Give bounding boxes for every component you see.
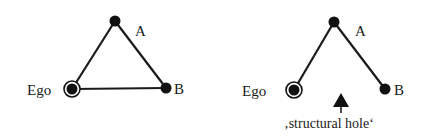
label-a: A	[355, 23, 366, 39]
node-ego	[286, 82, 302, 98]
structural-hole-diagram: Ego A B Ego A B ‚structural hole‘	[0, 0, 429, 138]
label-a: A	[135, 23, 146, 39]
node-a	[329, 17, 340, 28]
node-b	[161, 83, 172, 94]
label-b: B	[174, 81, 184, 97]
structural-hole-label: ‚structural hole‘	[284, 116, 374, 131]
edge-ego-b	[72, 88, 166, 89]
label-ego: Ego	[242, 83, 266, 99]
node-b	[380, 84, 391, 95]
open-triad-diagram: Ego A B ‚structural hole‘	[242, 17, 404, 132]
edge-ego-a	[294, 22, 334, 90]
node-ego	[64, 81, 80, 97]
up-arrow-icon	[333, 93, 349, 113]
label-ego: Ego	[27, 82, 51, 98]
closed-triad-diagram: Ego A B	[27, 16, 184, 99]
edge-ego-a	[72, 21, 115, 89]
node-a	[110, 16, 121, 27]
label-b: B	[394, 82, 404, 98]
